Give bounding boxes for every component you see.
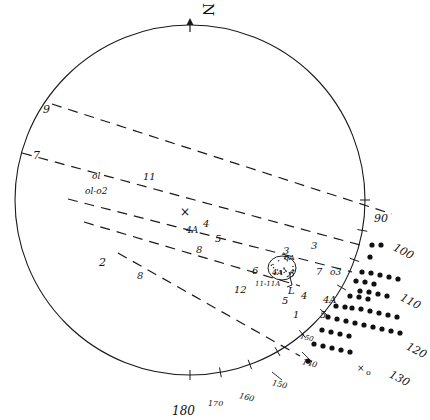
data-dot-6-3 <box>376 310 381 315</box>
contour-label-15: 4A <box>272 269 283 277</box>
data-dot-6-5 <box>394 314 399 319</box>
data-dot-5-1 <box>356 294 361 299</box>
data-dot-7-1 <box>342 304 347 309</box>
contour-label-8: 8 <box>196 245 202 255</box>
data-dot-6-2 <box>367 308 372 313</box>
contour-9 <box>52 104 392 214</box>
data-dot-10-2 <box>329 345 334 350</box>
contour-label-22: 3 <box>311 241 317 251</box>
figure-vector-layer <box>0 0 430 420</box>
cluster-stipple <box>278 260 280 262</box>
data-dot-10-3 <box>338 347 343 352</box>
data-dot-2-2 <box>377 272 382 277</box>
contour-label-9: 2 <box>99 257 106 268</box>
cluster-stipple <box>283 267 285 269</box>
contour-label-12: 12 <box>234 285 247 295</box>
data-dot-3-2 <box>371 281 376 286</box>
contour-label-18: 5 <box>282 296 288 306</box>
data-dot-5-0 <box>347 293 352 298</box>
contour-label-20: 1 <box>293 310 299 320</box>
contour-label-25: 4A <box>323 295 337 305</box>
contour-label-26: 5 <box>320 310 326 320</box>
contour-label-11: 6 <box>252 266 258 276</box>
contour-label-7: 5 <box>215 234 221 244</box>
contour-label-19: 4 <box>301 291 307 301</box>
contour-label-21: 3 <box>283 246 289 256</box>
cluster-stipple <box>292 266 294 268</box>
data-dot-2-3 <box>386 274 391 279</box>
data-dot-9-3 <box>346 333 351 338</box>
contour-label-23: 7 <box>316 267 322 277</box>
data-dot-2-4 <box>395 276 400 281</box>
primitive-circle <box>15 25 365 375</box>
data-dot-6-0 <box>349 305 354 310</box>
azimuth-tick-group <box>190 200 370 380</box>
north-arrow-head <box>187 18 194 25</box>
data-dot-4-1 <box>366 289 371 294</box>
data-dot-8-3 <box>352 320 357 325</box>
azimuth-label-9: 180 <box>172 405 195 417</box>
azimuth-tick-120 <box>337 285 346 290</box>
data-dot-0-0 <box>369 242 374 247</box>
stereonet-figure: 9010011012013014015016017018015097olol-o… <box>0 0 430 420</box>
contour-label-5: 4A <box>186 226 198 235</box>
data-dot-2-1 <box>368 270 373 275</box>
azimuth-tick-150 <box>275 347 280 356</box>
data-dot-9-0 <box>319 327 324 332</box>
data-dot-2-0 <box>359 269 364 274</box>
contour-label-13: 11-11A <box>255 281 280 288</box>
data-dot-4-0 <box>357 288 362 293</box>
contour-label-16: 6 <box>289 270 295 279</box>
north-arrow-group <box>187 18 313 380</box>
data-dot-9-2 <box>337 331 342 336</box>
circle-marker: o <box>366 369 371 377</box>
data-dot-10-4 <box>347 349 352 354</box>
cluster-stipple <box>285 270 287 272</box>
contour-label-4: 11 <box>143 172 156 182</box>
cluster-stipple <box>272 264 274 266</box>
contour-label-3: ol-o2 <box>85 187 107 196</box>
primitive-circle-group <box>15 25 365 375</box>
data-dot-3-1 <box>362 279 367 284</box>
cluster-stipple <box>271 265 273 267</box>
north-label: N <box>200 3 215 16</box>
contour-label-2: ol <box>92 172 100 181</box>
data-dot-1-0 <box>367 254 372 259</box>
contour-label-24: o3 <box>330 268 341 277</box>
contour-label-1: 7 <box>33 150 40 161</box>
data-dot-10-1 <box>320 343 325 348</box>
data-dot-4-2 <box>375 291 380 296</box>
data-dot-5-2 <box>365 296 370 301</box>
data-dot-9-1 <box>328 329 333 334</box>
data-dot-8-1 <box>334 316 339 321</box>
azimuth-label-0: 90 <box>374 213 388 224</box>
data-dot-8-5 <box>370 324 375 329</box>
data-dot-8-7 <box>388 328 393 333</box>
data-dot-8-4 <box>361 322 366 327</box>
data-dot-6-1 <box>358 306 363 311</box>
contour-label-0: 9 <box>43 104 50 115</box>
data-dot-3-0 <box>353 278 358 283</box>
data-dot-8-2 <box>343 318 348 323</box>
contour-ol <box>68 199 352 272</box>
contour-label-17: L <box>288 286 295 296</box>
data-dot-8-6 <box>379 326 384 331</box>
data-dot-4-3 <box>384 293 389 298</box>
azimuth-label-8: 170 <box>208 400 223 408</box>
data-dot-0-1 <box>378 242 383 247</box>
cluster-stipple <box>283 272 285 274</box>
x-marker: × <box>357 364 365 373</box>
cross-marker: × <box>180 206 190 218</box>
contour-label-10: 8 <box>137 271 143 281</box>
data-dot-8-8 <box>397 330 402 335</box>
contour-label-6: 4 <box>203 219 209 229</box>
data-dot-6-4 <box>385 312 390 317</box>
